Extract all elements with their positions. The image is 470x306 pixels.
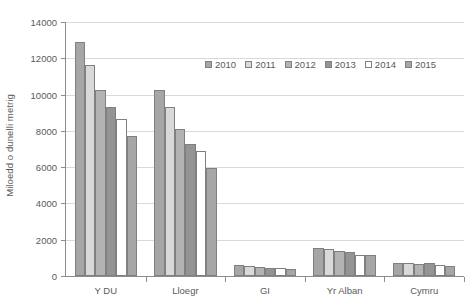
bar xyxy=(424,263,434,276)
bar xyxy=(313,248,323,276)
y-tick-label: 8000 xyxy=(11,125,57,136)
y-tick-label: 12000 xyxy=(11,53,57,64)
bar xyxy=(206,168,216,276)
bar xyxy=(75,42,85,276)
x-tick-mark xyxy=(305,277,306,282)
legend-item[interactable]: 2011 xyxy=(245,60,275,70)
legend-swatch-icon xyxy=(285,61,292,68)
bar xyxy=(445,266,455,276)
bar xyxy=(324,249,334,276)
x-category-label: GI xyxy=(260,285,270,296)
bar xyxy=(403,263,413,276)
bar xyxy=(345,252,355,276)
x-category-label: Yr Alban xyxy=(327,285,363,296)
legend-item[interactable]: 2014 xyxy=(365,60,396,70)
bar xyxy=(154,90,164,277)
x-category-label: Lloegr xyxy=(172,285,198,296)
chart-legend: 201020112012201320142015 xyxy=(205,60,436,70)
bar xyxy=(106,107,116,276)
bar xyxy=(265,268,275,276)
bar-chart: Miloedd o dunelli metrig 020004000600080… xyxy=(0,0,470,306)
legend-label: 2014 xyxy=(375,60,396,70)
bar xyxy=(196,151,206,276)
bar xyxy=(255,267,265,276)
legend-label: 2011 xyxy=(255,60,275,70)
legend-swatch-icon xyxy=(205,61,212,68)
x-category-label: Y DU xyxy=(95,285,118,296)
bar xyxy=(165,107,175,276)
y-tick-label: 10000 xyxy=(11,89,57,100)
y-tick-label: 14000 xyxy=(11,17,57,28)
legend-label: 2013 xyxy=(335,60,356,70)
legend-label: 2012 xyxy=(295,60,316,70)
bar xyxy=(365,255,375,276)
gridline xyxy=(66,22,464,23)
bar xyxy=(85,65,95,276)
bar xyxy=(414,264,424,276)
bar xyxy=(95,90,105,276)
legend-swatch-icon xyxy=(325,61,332,68)
legend-label: 2010 xyxy=(215,60,236,70)
x-tick-mark xyxy=(146,277,147,282)
bar xyxy=(275,268,285,276)
x-tick-mark xyxy=(384,277,385,282)
x-category-label: Cymru xyxy=(410,285,438,296)
legend-swatch-icon xyxy=(365,61,372,68)
legend-item[interactable]: 2015 xyxy=(405,60,436,70)
bar xyxy=(244,266,254,276)
bar xyxy=(355,255,365,276)
legend-item[interactable]: 2012 xyxy=(285,60,316,70)
gridline xyxy=(66,95,464,96)
bar xyxy=(334,251,344,276)
y-axis-line xyxy=(65,22,66,277)
y-tick-label: 2000 xyxy=(11,234,57,245)
legend-swatch-icon xyxy=(245,61,252,68)
bar xyxy=(185,144,195,276)
y-axis-title: Miloedd o dunelli metrig xyxy=(0,0,18,290)
legend-label: 2015 xyxy=(415,60,436,70)
y-axis-title-text: Miloedd o dunelli metrig xyxy=(4,94,15,197)
bar xyxy=(393,263,403,276)
y-tick-label: 0 xyxy=(11,271,57,282)
x-tick-mark xyxy=(464,277,465,282)
bar xyxy=(435,265,445,276)
x-tick-mark xyxy=(225,277,226,282)
y-tick-label: 6000 xyxy=(11,162,57,173)
legend-item[interactable]: 2013 xyxy=(325,60,356,70)
bar xyxy=(116,119,126,276)
legend-swatch-icon xyxy=(405,61,412,68)
x-axis-line xyxy=(65,276,464,277)
legend-item[interactable]: 2010 xyxy=(205,60,236,70)
y-tick-label: 4000 xyxy=(11,198,57,209)
bar xyxy=(234,265,244,276)
bar xyxy=(175,129,185,277)
bar xyxy=(127,136,137,276)
